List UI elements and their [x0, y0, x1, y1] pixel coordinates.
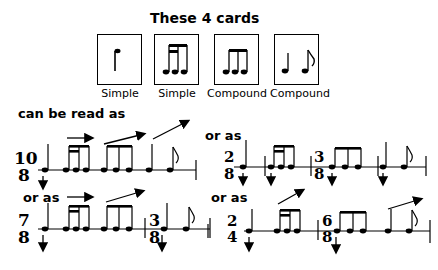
right-arrow-icon: [106, 191, 143, 202]
meter-numerator: 3: [314, 148, 324, 166]
meter-denominator: 4: [227, 228, 237, 246]
example-7-8-3-8: 7 8 3 8: [18, 191, 210, 250]
right-arrow-icon: [104, 134, 144, 144]
meter-numerator: 2: [224, 148, 234, 166]
right-arrow-icon: [153, 121, 188, 139]
down-arrows: [243, 173, 383, 184]
example-10-8: 10 8: [14, 121, 196, 188]
example-2-8-3-8: 2 8 3 8: [224, 140, 426, 184]
meter-denominator: 8: [18, 227, 30, 247]
example-2-4-6-8: 2 4 6 8: [208, 190, 430, 252]
right-arrow-icon: [388, 199, 421, 209]
meter-denominator: 8: [224, 165, 234, 183]
notes: [42, 144, 179, 172]
notes: [42, 203, 195, 231]
right-arrow-icon: [278, 190, 303, 204]
meter-denominator: 8: [18, 165, 30, 185]
notation-canvas: 10 8 2 8 3 8: [0, 0, 438, 270]
meter-denominator: 8: [149, 228, 160, 247]
meter-denominator: 8: [314, 165, 324, 183]
